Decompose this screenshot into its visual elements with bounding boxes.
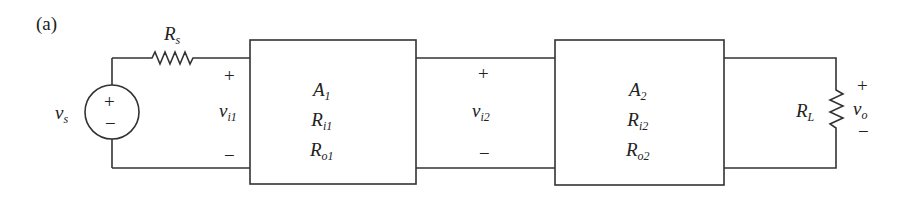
vi1-minus: − — [224, 146, 235, 165]
rs-label: Rs — [164, 24, 180, 46]
rl-label: RL — [796, 101, 814, 123]
circuit-lines — [0, 0, 915, 221]
vi1-plus: + — [224, 66, 235, 85]
vo-label: vo — [853, 99, 867, 121]
vi2-minus: − — [479, 144, 490, 163]
vo-minus: − — [858, 122, 869, 141]
source-plus: + — [104, 92, 115, 111]
stage1-params: A1 Ri1 Ro1 — [310, 78, 334, 168]
load-resistor-icon — [724, 58, 843, 168]
vo-plus: + — [857, 76, 868, 95]
vi2-label: vi2 — [472, 101, 490, 123]
figure-label: (a) — [36, 14, 57, 33]
stage2-params: A2 Ri2 Ro2 — [626, 78, 650, 168]
vi2-plus: + — [478, 64, 489, 83]
source-minus: − — [105, 114, 116, 133]
vi1-label: vi1 — [219, 101, 237, 123]
cascade-amplifier-diagram: (a) Rs + − vs + vi1 − A1 Ri1 Ro1 + vi2 −… — [0, 0, 915, 221]
vs-label: vs — [55, 103, 68, 125]
source-resistor-wire — [112, 52, 250, 64]
